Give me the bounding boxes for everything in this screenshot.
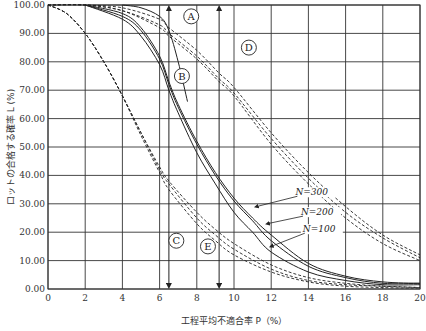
region-label-b: B <box>174 69 189 84</box>
x-tick-label: 18 <box>377 293 389 303</box>
y-tick-label: 90.00 <box>19 28 45 38</box>
x-tick-label: 12 <box>265 293 276 303</box>
curve-sharp-solid <box>122 5 187 102</box>
y-tick-label: 80.00 <box>19 57 45 67</box>
y-tick-label: 70.00 <box>19 85 45 95</box>
y-tick-label: 40.00 <box>19 170 45 180</box>
n-label-300: N=300 <box>294 187 328 197</box>
x-tick-label: 20 <box>414 293 426 303</box>
x-tick-label: 16 <box>340 293 352 303</box>
region-label-a: A <box>184 9 199 24</box>
y-tick-label: 0.00 <box>25 284 45 294</box>
y-tick-label: 100.00 <box>14 0 46 10</box>
leader-arrow <box>267 216 302 224</box>
grid-lines <box>48 5 420 289</box>
leader-arrow <box>256 196 297 206</box>
x-tick-label: 6 <box>157 293 163 303</box>
label-text: C <box>173 235 181 246</box>
region-label-e: E <box>200 239 215 254</box>
region-labels: ADBCE <box>169 9 257 254</box>
y-tick-label: 50.00 <box>19 142 45 152</box>
y-axis-label: ロットの合格する確率 L (%) <box>5 89 16 205</box>
region-label-c: C <box>169 233 184 248</box>
x-tick-label: 10 <box>228 293 240 303</box>
x-tick-label: 2 <box>82 293 88 303</box>
x-axis-label: 工程平均不適合率 P（%） <box>181 315 288 326</box>
axis-ticks: 024681012141618200.0010.0020.0030.0040.0… <box>14 0 426 303</box>
y-tick-label: 20.00 <box>19 227 45 237</box>
n-label-200: N=200 <box>300 207 334 217</box>
y-tick-label: 30.00 <box>19 199 45 209</box>
n-label-100: N=100 <box>302 224 336 234</box>
label-text: A <box>187 11 196 22</box>
region-label-d: D <box>241 40 256 55</box>
sample-size-labels: N=300N=200N=100 <box>256 187 343 246</box>
y-tick-label: 10.00 <box>19 256 45 266</box>
label-text: E <box>204 241 211 252</box>
x-tick-label: 4 <box>120 293 126 303</box>
oc-curve-chart: 024681012141618200.0010.0020.0030.0040.0… <box>0 0 426 331</box>
label-text: D <box>245 42 253 53</box>
x-tick-label: 14 <box>303 293 315 303</box>
x-tick-label: 0 <box>45 293 51 303</box>
x-tick-label: 8 <box>194 293 200 303</box>
label-text: B <box>178 71 185 82</box>
y-tick-label: 60.00 <box>19 114 45 124</box>
